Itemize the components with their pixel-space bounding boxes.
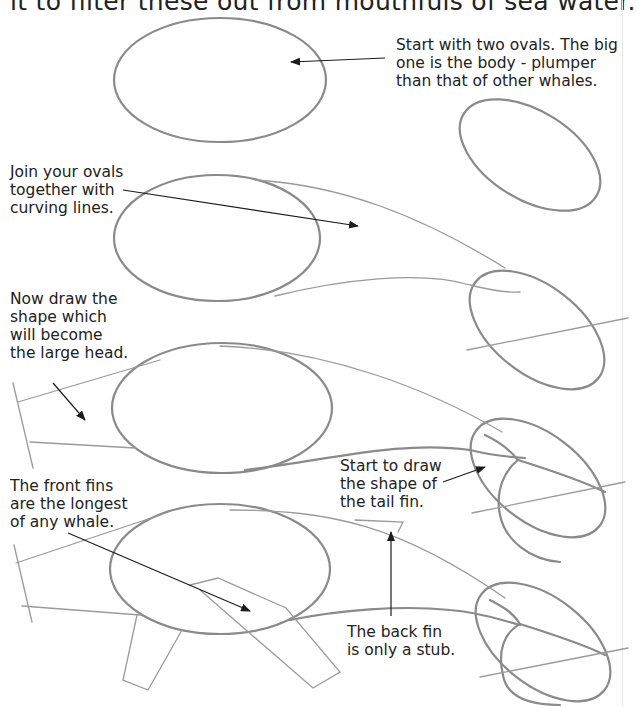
step-1-caption: Start with two ovals. The big one is the… [396,36,618,90]
tail-fin-shape [490,600,560,705]
lower-head-line [22,606,140,615]
front-fin-left [123,615,182,690]
step-5-drawing [14,504,630,707]
step-5b-caption: The back fin is only a stub. [347,623,455,659]
head-front-line [13,383,33,468]
step-5a-arrow [68,533,250,611]
step-3-arrow [53,383,85,420]
body-oval [110,504,330,634]
step-2-arrow [123,190,358,226]
tail-oval [448,247,625,412]
step-4-caption: Start to draw the shape of the tail fin. [340,457,442,511]
upper-back-curve [230,510,505,598]
body-oval [114,18,326,142]
upper-back-curve [220,346,502,432]
step-3-caption: Now draw the shape which will become the… [10,290,128,362]
upper-head-line [18,360,160,402]
step-2-caption: Join your ovals together with curving li… [10,163,123,217]
tail-oval [449,395,626,560]
lower-connecting-curve [275,278,520,296]
step-5a-caption: The front fins are the longest of any wh… [10,477,128,531]
tail-oval [441,76,620,233]
body-oval [112,343,332,473]
step-1-arrow [291,58,385,62]
upper-connecting-curve [255,180,505,268]
tail-fin-upper [518,460,605,492]
head-front-line [14,545,32,622]
lower-head-line [30,442,135,448]
tail-axis-line [467,318,628,350]
